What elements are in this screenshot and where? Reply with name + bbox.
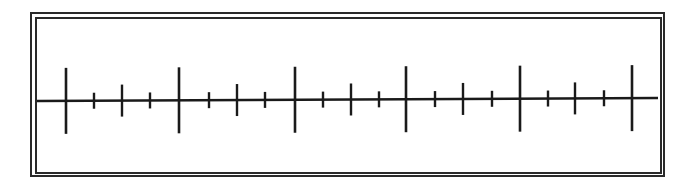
number-line bbox=[0, 0, 687, 184]
number-line-axis bbox=[37, 98, 658, 101]
